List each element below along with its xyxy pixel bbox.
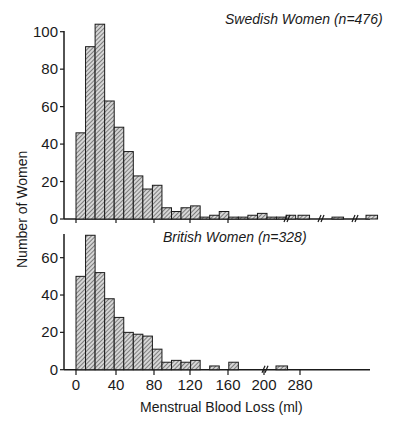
x-tick-label: 0 xyxy=(72,376,80,393)
y-tick-label: 40 xyxy=(41,135,58,152)
histogram-bar xyxy=(124,152,134,219)
histogram-bar xyxy=(277,217,287,219)
histogram-bar xyxy=(86,47,96,219)
histogram-bar xyxy=(181,362,191,369)
histogram-bar xyxy=(191,360,201,369)
histogram-bar xyxy=(114,317,124,369)
y-tick-label: 0 xyxy=(50,210,58,227)
y-tick-label: 100 xyxy=(33,23,58,40)
histogram-bar xyxy=(200,217,210,219)
histogram-bar xyxy=(298,215,310,219)
histogram-bar xyxy=(143,189,153,219)
histogram-bar xyxy=(172,212,182,219)
histogram-bar xyxy=(210,366,220,370)
histogram-bar xyxy=(152,185,162,219)
x-tick-label: 200 xyxy=(251,376,276,393)
histogram-bar xyxy=(219,212,229,219)
swedish-panel-title: Swedish Women (n=476) xyxy=(225,11,383,27)
histogram-bar xyxy=(86,235,96,369)
histogram-bar xyxy=(105,299,115,370)
histogram-bar xyxy=(133,334,143,369)
histogram-bar xyxy=(105,101,115,219)
histogram-bar xyxy=(366,215,378,219)
x-tick-label: 40 xyxy=(108,376,125,393)
histogram-bar xyxy=(114,127,124,219)
histogram-bar xyxy=(332,217,344,219)
histogram-bar xyxy=(276,366,288,370)
histogram-bar xyxy=(210,215,220,219)
y-tick-label: 20 xyxy=(41,323,58,340)
y-tick-label: 60 xyxy=(41,249,58,266)
histogram-figure: 020406080100 0204060 Swedish Women (n=47… xyxy=(0,0,406,421)
histogram-bar xyxy=(172,360,182,369)
histogram-bar xyxy=(76,133,86,219)
histogram-bar xyxy=(95,273,105,370)
histogram-bar xyxy=(124,332,134,369)
histogram-bar xyxy=(76,276,86,369)
x-tick-label: 120 xyxy=(177,376,202,393)
histogram-bar xyxy=(95,24,105,219)
swedish-histogram-panel: 020406080100 xyxy=(33,23,378,227)
x-tick-labels: 04080120160200280 xyxy=(72,370,313,393)
y-tick-label: 80 xyxy=(41,60,58,77)
histogram-bar xyxy=(191,206,201,219)
x-tick-label: 160 xyxy=(215,376,240,393)
y-tick-label: 40 xyxy=(41,286,58,303)
british-panel-title: British Women (n=328) xyxy=(163,229,307,245)
histogram-bar xyxy=(181,208,191,219)
histogram-bar xyxy=(238,217,248,219)
histogram-bar xyxy=(133,176,143,219)
y-tick-label: 0 xyxy=(50,361,58,378)
british-histogram-panel: 0204060 xyxy=(41,234,370,378)
y-tick-label: 60 xyxy=(41,98,58,115)
histogram-bar xyxy=(143,336,153,370)
histogram-bar xyxy=(152,349,162,370)
histogram-bar xyxy=(229,217,239,219)
histogram-bar xyxy=(248,215,258,219)
x-tick-label: 80 xyxy=(146,376,163,393)
histogram-bar xyxy=(162,208,172,219)
histogram-bar xyxy=(257,213,267,219)
histogram-bar xyxy=(267,217,277,219)
y-axis-title: Number of Women xyxy=(14,151,30,268)
histogram-bar xyxy=(229,362,239,369)
y-tick-label: 20 xyxy=(41,173,58,190)
x-tick-label: 280 xyxy=(287,376,312,393)
histogram-bar xyxy=(162,362,172,369)
histogram-bar xyxy=(286,215,296,219)
x-axis-title: Menstrual Blood Loss (ml) xyxy=(140,399,303,415)
chart-canvas: 020406080100 0204060 Swedish Women (n=47… xyxy=(0,0,406,421)
